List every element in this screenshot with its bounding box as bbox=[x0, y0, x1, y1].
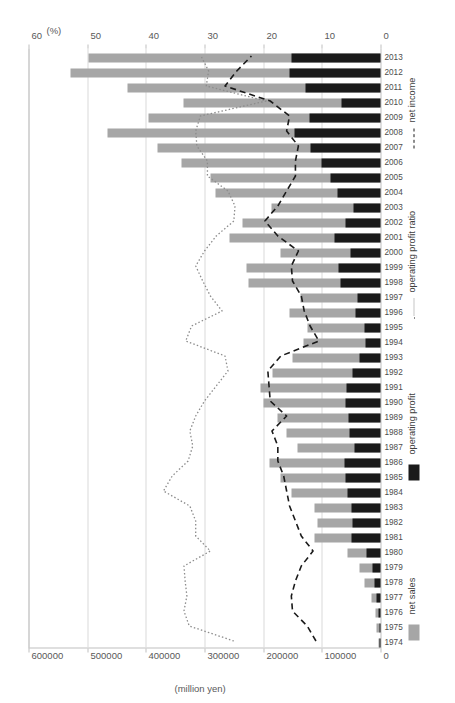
chart-figure: 1974197519761977197819791980198119821983… bbox=[0, 0, 455, 703]
legend-swatch-operating-profit-ratio-icon bbox=[413, 298, 414, 318]
secondary-tick-label-40: 40 bbox=[148, 29, 159, 40]
secondary-tick-label-60: 60 bbox=[31, 29, 42, 40]
primary-tick bbox=[28, 648, 29, 652]
primary-tick bbox=[204, 648, 205, 652]
primary-tick bbox=[263, 648, 264, 652]
primary-tick-label-400000: 400000 bbox=[148, 649, 180, 660]
line-net-income bbox=[225, 56, 319, 641]
secondary-tick bbox=[380, 44, 381, 48]
secondary-tick-label-10: 10 bbox=[324, 29, 335, 40]
primary-axis-title: (million yen) bbox=[174, 682, 225, 693]
legend-label-operating-profit-ratio: operating profit ratio bbox=[406, 210, 416, 292]
legend-swatch-net-income-icon bbox=[413, 128, 414, 148]
secondary-tick bbox=[204, 44, 205, 48]
legend-label-net-sales: net sales bbox=[406, 577, 416, 614]
secondary-tick bbox=[145, 44, 146, 48]
primary-tick bbox=[87, 648, 88, 652]
primary-tick-label-100000: 100000 bbox=[324, 649, 356, 660]
secondary-tick-label-30: 30 bbox=[207, 29, 218, 40]
primary-tick bbox=[321, 648, 322, 652]
secondary-tick bbox=[87, 44, 88, 48]
chart-page: 1974197519761977197819791980198119821983… bbox=[0, 0, 455, 703]
line-operating-profit-ratio bbox=[163, 56, 266, 641]
lines-layer bbox=[28, 48, 380, 648]
primary-tick-label-300000: 300000 bbox=[207, 649, 239, 660]
primary-tick-label-0: 0 bbox=[383, 649, 388, 660]
legend-label-operating-profit: operating profit bbox=[406, 393, 416, 454]
legend-swatch-operating-profit-icon bbox=[408, 464, 419, 480]
primary-tick-label-500000: 500000 bbox=[90, 649, 122, 660]
primary-tick-label-600000: 600000 bbox=[31, 649, 63, 660]
secondary-tick-label-50: 50 bbox=[90, 29, 101, 40]
secondary-tick bbox=[321, 44, 322, 48]
secondary-axis-title: (%) bbox=[46, 24, 61, 35]
primary-tick bbox=[380, 648, 381, 652]
secondary-tick bbox=[263, 44, 264, 48]
legend-label-net-income: net income bbox=[406, 77, 416, 122]
primary-tick-label-200000: 200000 bbox=[266, 649, 298, 660]
primary-tick bbox=[145, 648, 146, 652]
legend-swatch-net-sales-icon bbox=[408, 624, 419, 640]
secondary-tick-label-0: 0 bbox=[383, 29, 388, 40]
chart-legend: net salesoperating profitoperating profi… bbox=[398, 48, 438, 648]
secondary-tick bbox=[28, 44, 29, 48]
secondary-tick-label-20: 20 bbox=[266, 29, 277, 40]
